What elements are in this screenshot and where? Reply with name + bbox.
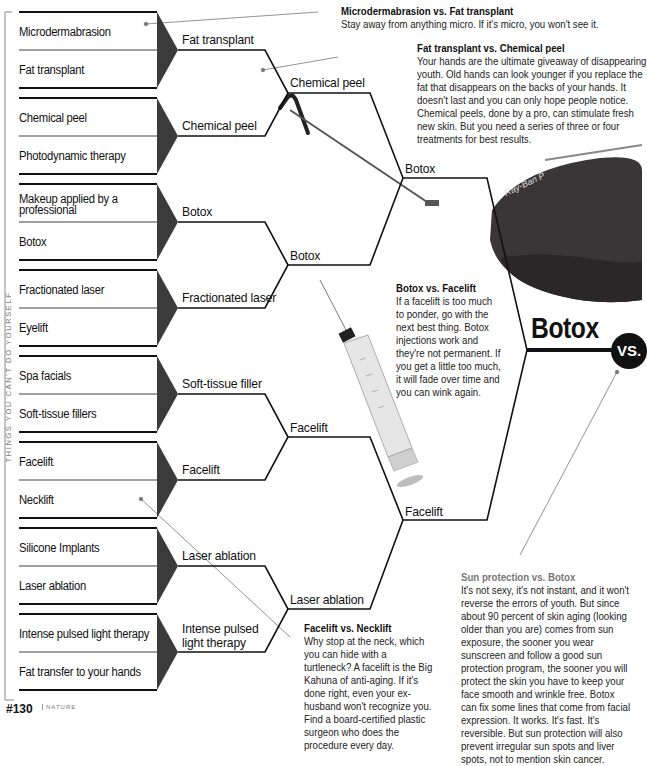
round1-entry: Fat transplant: [19, 63, 84, 77]
round1-wedge: [157, 270, 178, 346]
round1-entry: Makeup applied by a professional: [19, 194, 118, 216]
note-sun-protection-vs-botox: Sun protection vs. Botox It's not sexy, …: [461, 571, 632, 766]
round1-entry: Eyelift: [19, 321, 48, 335]
note-body: Stay away from anything micro. If it's m…: [341, 18, 599, 30]
round4-label: Botox: [405, 161, 435, 176]
round1-entry: Fat transfer to your hands: [19, 665, 141, 679]
round2-entry: Fat transplant: [182, 32, 254, 47]
round1-wedge: [157, 184, 178, 260]
round2-entry: Facelift: [182, 462, 220, 477]
round1-wedge: [157, 442, 178, 518]
round1-entry: Microdermabrasion: [19, 25, 111, 39]
round3-label: Laser ablation: [290, 592, 364, 607]
round3-label: Botox: [290, 248, 320, 263]
round1-entry: Facelift: [19, 455, 53, 469]
round3-label: Chemical peel: [290, 75, 365, 90]
vs-badge: VS.: [611, 333, 647, 369]
note-facelift-vs-necklift: Facelift vs. Necklift Why stop at the ne…: [304, 622, 435, 752]
round2-entry: Intense pulsed light therapy: [182, 622, 263, 650]
round4-label: Facelift: [405, 504, 443, 519]
round2-entry: Chemical peel: [182, 118, 257, 133]
round1-entry: Laser ablation: [19, 579, 86, 593]
note-fat-transplant-vs-chemical-peel: Fat transplant vs. Chemical peel Your ha…: [417, 42, 647, 146]
note-microdermabrasion-vs-fat-transplant: Microdermabrasion vs. Fat transplant Sta…: [341, 5, 645, 31]
round1-wedge: [157, 98, 178, 174]
page-number: #130: [6, 702, 33, 716]
round2-entry: Laser ablation: [182, 548, 256, 563]
round1-entry: Necklift: [19, 493, 54, 507]
note-body: It's not sexy, it's not instant, and it …: [461, 584, 630, 765]
note-title: Fat transplant vs. Chemical peel: [417, 42, 647, 55]
round1-wedge: [157, 12, 178, 88]
round1-entry: Spa facials: [19, 369, 71, 383]
round1-entry: Fractionated laser: [19, 283, 104, 297]
side-label: THINGS YOU CAN'T DO YOURSELF: [4, 323, 13, 463]
note-botox-vs-facelift: Botox vs. Facelift If a facelift is too …: [396, 282, 501, 399]
round3-label: Facelift: [290, 420, 328, 435]
round1-entry: Botox: [19, 235, 46, 249]
round1-entry: Chemical peel: [19, 111, 87, 125]
round1-wedge: [157, 356, 178, 432]
note-title: Botox vs. Facelift: [396, 282, 501, 295]
round1-entry: Soft-tissue fillers: [19, 407, 96, 421]
note-body: If a facelift is too much to ponder, go …: [396, 295, 501, 398]
winner-label: Botox: [531, 312, 599, 345]
round1-entry: Intense pulsed light therapy: [19, 627, 149, 641]
round1-wedge: [157, 528, 178, 604]
note-body: Your hands are the ultimate giveaway of …: [417, 55, 646, 145]
note-title: Facelift vs. Necklift: [304, 622, 435, 635]
round2-entry: Soft-tissue filler: [182, 376, 262, 391]
note-body: Why stop at the neck, which you can hide…: [304, 635, 432, 751]
note-title: Microdermabrasion vs. Fat transplant: [341, 5, 645, 18]
round2-entry: Fractionated laser: [182, 290, 276, 305]
note-title: Sun protection vs. Botox: [461, 571, 632, 584]
round2-entry: Botox: [182, 204, 212, 219]
round1-entry: Photodynamic therapy: [19, 149, 126, 163]
source-label: NATURE: [42, 704, 76, 710]
round1-wedge: [157, 614, 178, 690]
round3-bracket: [288, 93, 403, 265]
round3-bracket: [288, 437, 403, 609]
round1-entry: Silicone Implants: [19, 541, 99, 555]
